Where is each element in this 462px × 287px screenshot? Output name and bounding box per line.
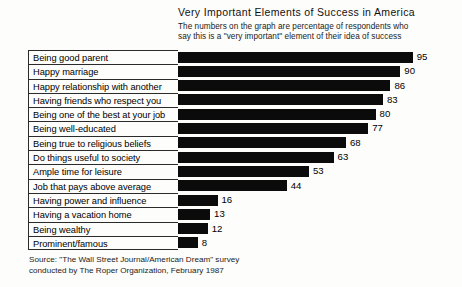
category-label: Having power and influence bbox=[33, 195, 146, 207]
category-label-box: Being true to religious beliefs bbox=[28, 136, 178, 150]
chart-row: Being wealthy12 bbox=[0, 222, 462, 236]
chart-row: Having friends who respect you83 bbox=[0, 93, 462, 107]
category-label: Happy marriage bbox=[33, 66, 98, 78]
category-label: Ample time for leisure bbox=[33, 166, 122, 178]
chart-row: Job that pays above average44 bbox=[0, 179, 462, 193]
category-label: Happy relationship with another bbox=[33, 81, 162, 93]
data-bar bbox=[178, 66, 400, 77]
category-label: Being true to religious beliefs bbox=[33, 138, 151, 150]
category-label-box: Ample time for leisure bbox=[28, 164, 178, 178]
category-label-box: Being wealthy bbox=[28, 222, 178, 236]
chart-plot-area: Being good parent95Happy marriage90Happy… bbox=[0, 50, 462, 236]
chart-source-note: Source: "The Wall Street Journal/America… bbox=[29, 255, 239, 276]
bar-value-label: 12 bbox=[212, 223, 223, 235]
category-label: Being wealthy bbox=[33, 224, 90, 236]
category-label-box: Having power and influence bbox=[28, 193, 178, 207]
data-bar bbox=[178, 166, 309, 177]
bar-value-label: 86 bbox=[394, 80, 405, 92]
data-bar bbox=[178, 237, 198, 248]
chart-row: Being well-educated77 bbox=[0, 121, 462, 135]
data-bar bbox=[178, 209, 210, 220]
chart-row: Having power and influence16 bbox=[0, 193, 462, 207]
bar-chart-figure: Very Important Elements of Success in Am… bbox=[0, 0, 462, 287]
chart-row: Having a vacation home13 bbox=[0, 207, 462, 221]
category-label-box: Being well-educated bbox=[28, 121, 178, 135]
category-label-box: Having friends who respect you bbox=[28, 93, 178, 107]
category-label-box: Job that pays above average bbox=[28, 179, 178, 193]
chart-row: Ample time for leisure53 bbox=[0, 164, 462, 178]
bar-value-label: 53 bbox=[313, 165, 324, 177]
chart-subtitle-line-2: say this is a "very important" element o… bbox=[178, 32, 458, 42]
bar-value-label: 90 bbox=[404, 65, 415, 77]
data-bar bbox=[178, 137, 346, 148]
chart-subtitle: The numbers on the graph are percentage … bbox=[178, 22, 458, 41]
data-bar bbox=[178, 80, 390, 91]
category-label-box: Happy relationship with another bbox=[28, 79, 178, 93]
category-label-box: Happy marriage bbox=[28, 64, 178, 78]
category-label: Being good parent bbox=[33, 52, 108, 64]
category-label-box: Being good parent bbox=[28, 50, 178, 64]
bar-value-label: 63 bbox=[338, 151, 349, 163]
chart-row: Being good parent95 bbox=[0, 50, 462, 64]
category-label: Prominent/famous bbox=[33, 238, 108, 250]
category-label: Having friends who respect you bbox=[33, 95, 161, 107]
source-line-2: conducted by The Roper Organization, Feb… bbox=[29, 266, 239, 277]
category-label: Do things useful to society bbox=[33, 152, 140, 164]
category-label-box: Being one of the best at your job bbox=[28, 107, 178, 121]
category-label: Being well-educated bbox=[33, 123, 116, 135]
bar-value-label: 68 bbox=[350, 137, 361, 149]
bar-value-label: 8 bbox=[202, 237, 207, 249]
bar-value-label: 95 bbox=[417, 51, 428, 63]
data-bar bbox=[178, 94, 383, 105]
data-bar bbox=[178, 52, 413, 63]
chart-row: Being true to religious beliefs68 bbox=[0, 136, 462, 150]
chart-title: Very Important Elements of Success in Am… bbox=[178, 6, 458, 19]
category-label-box: Prominent/famous bbox=[28, 236, 178, 250]
category-label: Job that pays above average bbox=[33, 181, 151, 193]
bar-value-label: 16 bbox=[222, 194, 233, 206]
data-bar bbox=[178, 152, 334, 163]
chart-row: Happy marriage90 bbox=[0, 64, 462, 78]
category-label: Having a vacation home bbox=[33, 209, 132, 221]
bar-value-label: 44 bbox=[291, 180, 302, 192]
chart-subtitle-line-1: The numbers on the graph are percentage … bbox=[178, 22, 458, 32]
source-line-1: Source: "The Wall Street Journal/America… bbox=[29, 255, 239, 266]
chart-row: Being one of the best at your job80 bbox=[0, 107, 462, 121]
bar-value-label: 80 bbox=[380, 108, 391, 120]
category-label-box: Do things useful to society bbox=[28, 150, 178, 164]
bar-value-label: 13 bbox=[214, 208, 225, 220]
chart-header: Very Important Elements of Success in Am… bbox=[178, 6, 458, 41]
category-label-box: Having a vacation home bbox=[28, 207, 178, 221]
data-bar bbox=[178, 195, 218, 206]
bar-value-label: 77 bbox=[372, 122, 383, 134]
chart-row: Happy relationship with another86 bbox=[0, 79, 462, 93]
chart-row: Prominent/famous8 bbox=[0, 236, 462, 250]
data-bar bbox=[178, 223, 208, 234]
bar-value-label: 83 bbox=[387, 94, 398, 106]
category-label: Being one of the best at your job bbox=[33, 109, 165, 121]
data-bar bbox=[178, 180, 287, 191]
data-bar bbox=[178, 123, 368, 134]
data-bar bbox=[178, 109, 376, 120]
chart-row: Do things useful to society63 bbox=[0, 150, 462, 164]
